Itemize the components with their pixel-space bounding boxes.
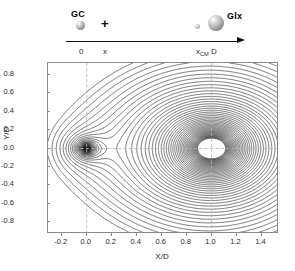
x-tick-mark <box>136 233 137 236</box>
y-tick-mark <box>47 184 50 185</box>
x-tick-label: -0.2 <box>54 237 67 246</box>
y-tick-mark <box>47 111 50 112</box>
sphere-tiny-icon <box>195 24 200 29</box>
contour-plot-area <box>47 62 278 233</box>
x-tick-mark <box>61 233 62 236</box>
contour-svg <box>48 63 278 233</box>
x-tick-mark <box>261 233 262 236</box>
contour-lines <box>48 63 278 233</box>
sphere-small-icon <box>76 21 85 30</box>
x-tick-label: 0.8 <box>180 237 190 246</box>
right-arrow-icon <box>237 37 245 43</box>
y-tick-mark <box>47 129 50 130</box>
y-tick-mark <box>47 203 50 204</box>
sphere-large-icon <box>208 15 224 31</box>
x-axis-label: X/D <box>155 252 168 261</box>
schematic-tick-x: x <box>103 47 107 56</box>
contour-path <box>48 63 278 233</box>
y-tick-mark <box>47 148 50 149</box>
x-tick-label: 1.2 <box>230 237 240 246</box>
plus-operator: + <box>101 17 109 30</box>
gc-label: GC <box>71 9 85 19</box>
y-tick-label: -0.8 <box>1 216 14 225</box>
y-tick-label: -0.2 <box>1 161 14 170</box>
y-tick-label: 0.8 <box>4 69 14 78</box>
y-tick-label: -0.6 <box>1 198 14 207</box>
y-tick-label: 0.0 <box>4 143 14 152</box>
x-tick-mark <box>111 233 112 236</box>
y-tick-label: -0.4 <box>1 179 14 188</box>
x-tick-label: 1.4 <box>255 237 265 246</box>
y-tick-label: 0.4 <box>4 106 14 115</box>
x-tick-label: 0.4 <box>130 237 140 246</box>
x-tick-mark <box>161 233 162 236</box>
y-tick-mark <box>47 166 50 167</box>
schematic-tick-xcm: xCM D <box>196 47 217 56</box>
y-axis-label: Y/D <box>2 127 11 140</box>
x-tick-mark <box>211 233 212 236</box>
x-tick-mark <box>86 233 87 236</box>
x-tick-mark <box>236 233 237 236</box>
glx-label: Glx <box>227 11 242 21</box>
y-tick-mark <box>47 221 50 222</box>
xcm-subscript: CM <box>200 51 209 57</box>
y-tick-mark <box>47 92 50 93</box>
x-tick-label: 1.0 <box>205 237 215 246</box>
x-tick-label: 0.6 <box>155 237 165 246</box>
figure-root: GC + Glx 0 x xCM D <box>0 0 295 271</box>
x-tick-mark <box>186 233 187 236</box>
x-tick-label: 0.2 <box>105 237 115 246</box>
y-tick-label: 0.6 <box>4 87 14 96</box>
position-axis-line <box>66 41 238 42</box>
schematic-diagram: GC + Glx 0 x xCM D <box>0 0 295 62</box>
x-tick-label: 0.0 <box>80 237 90 246</box>
xcm-d: D <box>211 47 217 56</box>
y-tick-mark <box>47 74 50 75</box>
schematic-tick-0: 0 <box>79 47 83 56</box>
